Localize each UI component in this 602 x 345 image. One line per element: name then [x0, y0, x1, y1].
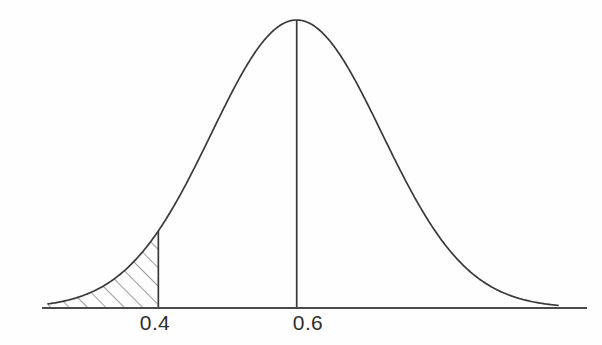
normal-curve-line — [48, 20, 558, 305]
tail-hatch-fill — [42, 211, 166, 314]
normal-curve-figure: 0.4 0.6 — [0, 0, 602, 345]
shaded-left-tail-region — [42, 211, 166, 314]
tick-label-0.6: 0.6 — [293, 312, 323, 333]
tick-label-0.4: 0.4 — [140, 312, 170, 333]
distribution-chart-svg — [0, 0, 602, 345]
